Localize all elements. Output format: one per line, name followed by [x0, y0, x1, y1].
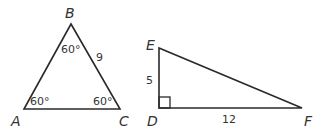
side-label-de: 5: [146, 74, 153, 87]
side-label-bc: 9: [96, 51, 103, 64]
vertex-label-a: A: [10, 113, 21, 129]
angle-label-c: 60°: [93, 95, 113, 108]
vertex-label-b: B: [65, 5, 75, 21]
vertex-label-d: D: [147, 113, 158, 129]
right-angle-marker: [159, 97, 170, 108]
geometry-diagram: B A C 60° 60° 60° 9 E D F 5 12: [0, 0, 321, 134]
vertex-label-e: E: [146, 37, 155, 53]
vertex-label-f: F: [304, 113, 313, 129]
triangle-def: [159, 48, 302, 108]
vertex-label-c: C: [119, 113, 129, 129]
angle-label-b: 60°: [61, 43, 81, 56]
side-label-df: 12: [222, 113, 236, 126]
angle-label-a: 60°: [30, 95, 50, 108]
